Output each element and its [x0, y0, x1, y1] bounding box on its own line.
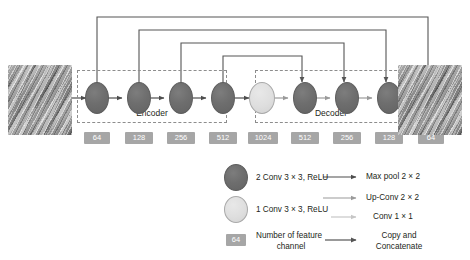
legend-dark-circle-icon	[224, 164, 248, 191]
channel-chip-encoder-3: 256	[167, 132, 195, 144]
node-encoder-1[interactable]	[85, 82, 109, 114]
unet-architecture-diagram: Encoder Decoder 64 128 256 512 1024 512 …	[0, 0, 470, 260]
channel-chip-decoder-1: 512	[291, 132, 319, 144]
legend-label-feature-channel-line1: Number of feature	[256, 231, 322, 241]
legend-label-2-conv: 2 Conv 3 × 3, ReLU	[256, 173, 328, 183]
node-encoder-4[interactable]	[211, 82, 235, 114]
legend-label-copy-concat-line1: Copy and	[362, 231, 436, 241]
legend-label-copy-concat-line2: Concatenate	[362, 242, 436, 252]
legend-label-max-pool: Max pool 2 × 2	[366, 172, 420, 182]
legend-chip-icon: 64	[226, 234, 246, 246]
node-decoder-2[interactable]	[335, 82, 359, 114]
channel-chip-encoder-1: 64	[84, 132, 110, 144]
node-decoder-1[interactable]	[293, 82, 317, 114]
legend-label-up-conv: Up-Conv 2 × 2	[366, 193, 419, 203]
legend-label-conv-1x1: Conv 1 × 1	[373, 212, 413, 222]
channel-chip-encoder-2: 128	[125, 132, 153, 144]
output-image	[398, 65, 462, 135]
channel-chip-bottleneck: 1024	[248, 132, 278, 144]
legend-light-circle-icon	[224, 196, 248, 223]
input-image	[8, 65, 72, 135]
channel-chip-decoder-2: 256	[333, 132, 361, 144]
channel-chip-encoder-4: 512	[209, 132, 237, 144]
legend-label-feature-channel-line2: channel	[256, 242, 326, 252]
node-encoder-3[interactable]	[169, 82, 193, 114]
legend-label-1-conv: 1 Conv 3 × 3, ReLU	[256, 205, 328, 215]
node-encoder-2[interactable]	[127, 82, 151, 114]
node-bottleneck[interactable]	[249, 82, 275, 114]
